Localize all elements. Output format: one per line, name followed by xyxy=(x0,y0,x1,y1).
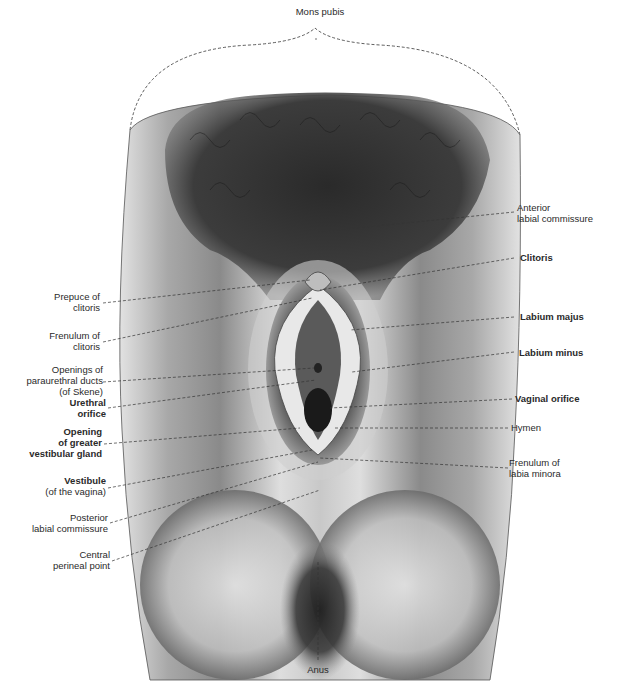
label-posterior-labial-commissure: Posterior labial commissure xyxy=(32,512,108,534)
label-text: Frenulum of xyxy=(49,330,100,341)
label-text: Vaginal orifice xyxy=(515,393,579,404)
label-prepuce-of-clitoris: Prepuce of clitoris xyxy=(54,291,100,313)
label-text: Openings of xyxy=(26,364,103,375)
label-text: Anus xyxy=(293,664,343,675)
label-vestibule: Vestibule (of the vagina) xyxy=(45,475,106,497)
label-text: Urethral xyxy=(70,397,106,408)
label-central-perineal-point: Central perineal point xyxy=(53,549,110,571)
label-text: labial commissure xyxy=(517,213,593,224)
label-text: Posterior xyxy=(32,512,108,523)
label-text: clitoris xyxy=(54,302,100,313)
label-text: labia minora xyxy=(509,468,561,479)
label-labium-majus: Labium majus xyxy=(520,311,584,322)
label-text: (of Skene) xyxy=(26,386,103,397)
label-labium-minus: Labium minus xyxy=(519,347,583,358)
label-text: Labium minus xyxy=(519,347,583,358)
label-text: paraurethral ducts xyxy=(26,375,103,386)
label-text: Hymen xyxy=(511,422,541,433)
label-anterior-labial-commissure: Anterior labial commissure xyxy=(517,202,593,224)
label-text: orifice xyxy=(70,408,106,419)
label-text: Anterior xyxy=(517,202,593,213)
label-opening-greater-vestibular-gland: Opening of greater vestibular gland xyxy=(29,426,102,459)
label-frenulum-of-clitoris: Frenulum of clitoris xyxy=(49,330,100,352)
label-hymen: Hymen xyxy=(511,422,541,433)
label-mons-pubis: Mons pubis xyxy=(285,6,355,17)
label-text: labial commissure xyxy=(32,523,108,534)
label-openings-paraurethral-ducts: Openings of paraurethral ducts (of Skene… xyxy=(26,364,103,397)
label-text: Labium majus xyxy=(520,311,584,322)
label-text: clitoris xyxy=(49,341,100,352)
label-text: Clitoris xyxy=(520,252,553,263)
label-text: Opening xyxy=(29,426,102,437)
label-urethral-orifice: Urethral orifice xyxy=(70,397,106,419)
label-clitoris: Clitoris xyxy=(520,252,553,263)
label-text: vestibular gland xyxy=(29,448,102,459)
label-text: Vestibule xyxy=(45,475,106,486)
label-text: perineal point xyxy=(53,560,110,571)
label-text: (of the vagina) xyxy=(45,486,106,497)
label-text: of greater xyxy=(29,437,102,448)
label-text: Mons pubis xyxy=(285,6,355,17)
label-anus: Anus xyxy=(293,664,343,675)
label-vaginal-orifice: Vaginal orifice xyxy=(515,393,579,404)
label-text: Prepuce of xyxy=(54,291,100,302)
label-frenulum-of-labia-minora: Frenulum of labia minora xyxy=(509,457,561,479)
label-text: Central xyxy=(53,549,110,560)
label-text: Frenulum of xyxy=(509,457,561,468)
